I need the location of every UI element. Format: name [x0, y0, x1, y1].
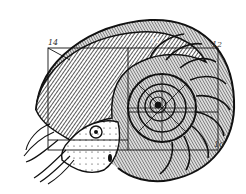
nautilus-engraving: [0, 0, 246, 194]
inner-spiral: [128, 74, 196, 142]
label-14: 14: [48, 39, 58, 47]
label-11: 11: [150, 37, 160, 45]
nautilus-illustration: 14 12 11 10: [0, 0, 246, 194]
label-10: 10: [214, 141, 224, 149]
label-12: 12: [212, 41, 222, 49]
